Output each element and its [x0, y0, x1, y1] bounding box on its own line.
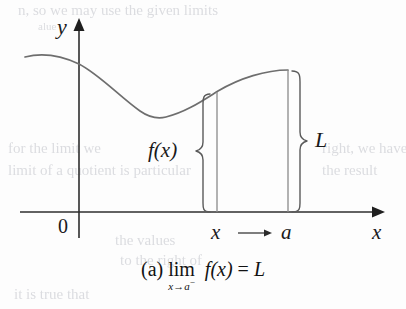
limit-subscript: x→a− [168, 277, 194, 292]
function-curve [25, 55, 288, 118]
limit-value-label: L [315, 129, 327, 151]
figure-caption: (a) limx→a− f(x) = L [0, 258, 406, 281]
x-axis-label: x [372, 222, 381, 243]
limit-sub-arrow: → [173, 280, 184, 292]
tick-label-x: x [211, 222, 220, 243]
origin-label: 0 [58, 216, 68, 236]
brace-L [292, 71, 307, 212]
y-axis [74, 18, 85, 238]
limit-sub-side: − [190, 277, 195, 287]
caption-result: L [254, 258, 265, 281]
limit-operator: limx→a− [168, 258, 195, 281]
limit-figure: n, so we may use the given limits alue f… [0, 0, 406, 309]
brace-f-of-x [196, 94, 210, 212]
caption-expression: f(x) [205, 258, 233, 281]
x-axis-arrowhead [372, 207, 385, 218]
caption-equals: = [238, 258, 249, 281]
x-axis [20, 207, 385, 218]
approach-arrow-icon [238, 230, 272, 237]
y-axis-arrowhead [74, 18, 85, 31]
tick-label-a: a [281, 222, 292, 243]
y-axis-label: y [57, 16, 67, 38]
function-value-label: f(x) [148, 140, 177, 161]
caption-part-label: (a) [141, 258, 163, 281]
